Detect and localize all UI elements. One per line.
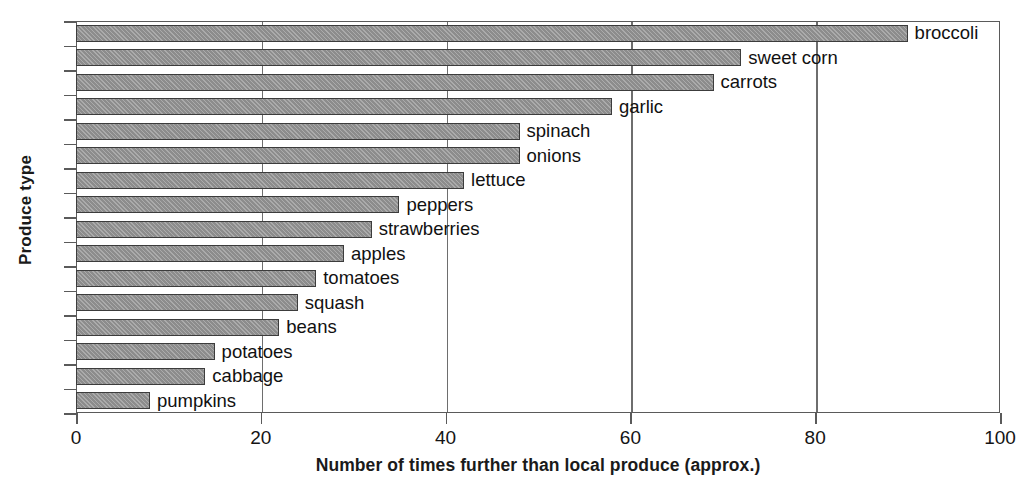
x-tick-20 — [261, 413, 263, 424]
bar-row: beans — [76, 315, 337, 340]
bar-label-peppers: peppers — [406, 196, 473, 215]
bar-row: cabbage — [76, 364, 283, 389]
y-tick — [64, 217, 77, 219]
bar-label-lettuce: lettuce — [471, 171, 526, 190]
y-tick — [64, 242, 77, 244]
bar-label-potatoes: potatoes — [222, 343, 293, 362]
bar-row: lettuce — [76, 168, 526, 193]
bar-squash — [76, 294, 298, 311]
bar-broccoli — [76, 25, 908, 42]
bar-beans — [76, 319, 279, 336]
bar-row: apples — [76, 242, 405, 267]
bar-row: peppers — [76, 193, 473, 218]
x-tick-label-20: 20 — [250, 427, 271, 449]
y-tick — [64, 315, 77, 317]
bar-label-broccoli: broccoli — [915, 24, 979, 43]
bar-garlic — [76, 98, 612, 115]
bar-potatoes — [76, 343, 215, 360]
bar-row: pumpkins — [76, 389, 236, 414]
bar-chart: Produce type Number of times further tha… — [0, 0, 1034, 490]
bar-row: squash — [76, 291, 364, 316]
bar-cabbage — [76, 368, 205, 385]
bar-tomatoes — [76, 270, 316, 287]
bar-row: onions — [76, 144, 581, 169]
x-tick-100 — [1000, 413, 1002, 424]
y-tick — [64, 168, 77, 170]
x-tick-label-80: 80 — [805, 427, 826, 449]
bar-sweet-corn — [76, 49, 741, 66]
bar-label-apples: apples — [351, 245, 406, 264]
bar-row: garlic — [76, 95, 663, 120]
bar-label-pumpkins: pumpkins — [157, 392, 236, 411]
bar-label-garlic: garlic — [619, 98, 663, 117]
y-tick — [64, 144, 77, 146]
bar-lettuce — [76, 172, 464, 189]
x-tick-label-40: 40 — [435, 427, 456, 449]
bar-label-squash: squash — [305, 294, 365, 313]
bar-label-onions: onions — [527, 147, 582, 166]
bar-label-strawberries: strawberries — [379, 220, 480, 239]
y-tick — [64, 193, 77, 195]
bar-row: broccoli — [76, 21, 978, 46]
bar-row: spinach — [76, 119, 590, 144]
x-tick-label-100: 100 — [984, 427, 1016, 449]
y-tick — [64, 95, 77, 97]
y-tick — [64, 266, 77, 268]
bar-label-spinach: spinach — [527, 122, 591, 141]
y-tick — [64, 46, 77, 48]
y-tick — [64, 364, 77, 366]
bar-pumpkins — [76, 392, 150, 409]
bar-apples — [76, 245, 344, 262]
gridline-x-80 — [816, 22, 818, 412]
y-tick — [64, 119, 77, 121]
y-axis-title-text: Produce type — [16, 155, 36, 265]
y-tick — [64, 389, 77, 391]
x-tick-label-0: 0 — [71, 427, 82, 449]
bar-row: tomatoes — [76, 266, 399, 291]
bar-strawberries — [76, 221, 372, 238]
bar-onions — [76, 147, 520, 164]
x-tick-0 — [76, 413, 78, 424]
x-tick-80 — [815, 413, 817, 424]
bar-label-tomatoes: tomatoes — [323, 269, 399, 288]
bar-label-sweet-corn: sweet corn — [748, 49, 837, 68]
bar-peppers — [76, 196, 399, 213]
bar-label-carrots: carrots — [721, 73, 778, 92]
bar-label-cabbage: cabbage — [212, 367, 283, 386]
bar-carrots — [76, 74, 714, 91]
y-tick — [64, 70, 77, 72]
y-axis-title: Produce type — [0, 0, 52, 420]
x-tick-label-60: 60 — [620, 427, 641, 449]
y-tick — [64, 21, 77, 23]
x-tick-60 — [630, 413, 632, 424]
bar-row: carrots — [76, 70, 777, 95]
bar-row: potatoes — [76, 340, 293, 365]
bar-spinach — [76, 123, 520, 140]
bar-label-beans: beans — [286, 318, 336, 337]
y-tick — [64, 340, 77, 342]
bar-row: strawberries — [76, 217, 479, 242]
y-tick — [64, 291, 77, 293]
x-axis-title: Number of times further than local produ… — [76, 455, 1000, 476]
bar-row: sweet corn — [76, 46, 838, 71]
x-tick-40 — [446, 413, 448, 424]
